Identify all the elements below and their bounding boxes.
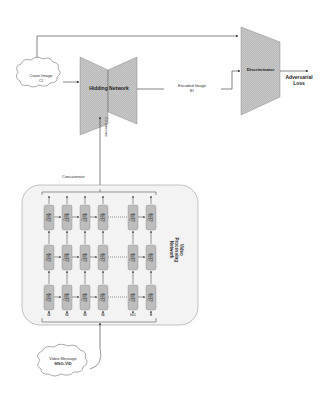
encoded-image-label: Encoded Image EI — [164, 84, 220, 93]
hidding-network-shape — [80, 57, 137, 135]
cell-label-line2: LSTM — [133, 245, 136, 270]
discriminator-label: Discriminator — [242, 68, 279, 73]
vpn-line2: Processing — [173, 230, 178, 270]
discriminator-text: Discriminator — [247, 67, 275, 72]
conv-lstm-cell: ConvLSTM — [148, 205, 155, 230]
conv-lstm-cell: ConvLSTM — [100, 285, 107, 310]
cell-label-line2: LSTM — [85, 205, 88, 230]
cover-image-line2: CI — [24, 79, 58, 84]
encoded-to-discriminator-arrow — [221, 71, 240, 89]
conv-lstm-cell: ConvLSTM — [64, 285, 71, 310]
cell-label-line2: LSTM — [85, 245, 88, 270]
cell-label-line2: LSTM — [151, 245, 154, 270]
cell-label-line2: LSTM — [67, 205, 70, 230]
frame-ft-text: ft — [150, 312, 152, 317]
video-message-label: Video Message MSG-VID — [40, 357, 86, 366]
cover-image-label: Cover Image CI — [24, 74, 58, 83]
frame-f2: f2 — [62, 313, 72, 318]
concatenate-top-text: Concatenate — [62, 174, 85, 179]
cell-label-line2: LSTM — [151, 205, 154, 230]
cell-label-line2: LSTM — [49, 245, 52, 270]
frame-f4: f4 — [98, 313, 108, 318]
conv-lstm-cell: ConvLSTM — [130, 245, 137, 270]
cell-label-line2: LSTM — [103, 245, 106, 270]
video-processing-network-label: Video Processing Network — [168, 230, 184, 270]
hidding-network-text: Hidding Network — [89, 85, 129, 91]
cell-label-line2: LSTM — [67, 245, 70, 270]
conv-lstm-cell: ConvLSTM — [130, 285, 137, 310]
adversarial-loss-label: Adversarial Loss — [282, 75, 316, 87]
frame-f1-text: f1 — [47, 312, 50, 317]
frame-f4-text: f4 — [101, 312, 104, 317]
encoded-image-line2: EI — [164, 89, 220, 94]
video-message-line2: MSG-VID — [40, 362, 86, 367]
cell-label-line2: LSTM — [49, 205, 52, 230]
cell-label-line2: LSTM — [49, 285, 52, 310]
cell-label-line2: LSTM — [85, 285, 88, 310]
conv-lstm-cell: ConvLSTM — [64, 205, 71, 230]
concatenate-vertical-label: Concatenate — [104, 117, 108, 137]
conv-lstm-cell: ConvLSTM — [100, 205, 107, 230]
frame-ft: ft — [146, 313, 156, 318]
concatenate-vertical-text: Concatenate — [104, 117, 108, 137]
frame-ft-1: ft-1 — [128, 313, 138, 318]
conv-lstm-cell: ConvLSTM — [82, 245, 89, 270]
cell-label-line2: LSTM — [103, 285, 106, 310]
conv-lstm-cell: ConvLSTM — [64, 245, 71, 270]
frame-ft-1-text: ft-1 — [130, 312, 136, 317]
conv-lstm-cell: ConvLSTM — [148, 285, 155, 310]
concatenate-top-label: Concatenate — [62, 175, 102, 180]
conv-lstm-cell: ConvLSTM — [82, 285, 89, 310]
cell-label-line2: LSTM — [151, 285, 154, 310]
conv-lstm-cell: ConvLSTM — [148, 245, 155, 270]
frame-f1: f1 — [44, 313, 54, 318]
video-message-connector — [90, 348, 101, 369]
vpn-line3: Network — [168, 230, 173, 270]
cell-label-line2: LSTM — [103, 205, 106, 230]
cell-label-line2: LSTM — [67, 285, 70, 310]
frame-f3: f3 — [80, 313, 90, 318]
cell-label-line2: LSTM — [133, 285, 136, 310]
conv-lstm-cell: ConvLSTM — [100, 245, 107, 270]
frame-f2-text: f2 — [65, 312, 68, 317]
adversarial-loss-line2: Loss — [282, 81, 316, 87]
cover-to-discriminator-line — [37, 36, 238, 65]
conv-lstm-cell: ConvLSTM — [46, 245, 53, 270]
cell-label-line2: LSTM — [133, 205, 136, 230]
vpn-line1: Video — [179, 230, 184, 270]
diagram-canvas — [0, 0, 328, 401]
conv-lstm-cell: ConvLSTM — [82, 205, 89, 230]
conv-lstm-cell: ConvLSTM — [46, 285, 53, 310]
frame-f3-text: f3 — [83, 312, 86, 317]
hidding-network-label: Hidding Network — [84, 86, 134, 92]
conv-lstm-cell: ConvLSTM — [130, 205, 137, 230]
conv-lstm-cell: ConvLSTM — [46, 205, 53, 230]
